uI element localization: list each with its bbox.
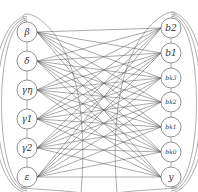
edge-gamma2-y [37, 148, 161, 177]
node-label: bk2 [165, 98, 176, 105]
node-label: b1 [165, 48, 177, 58]
edge-gamma1-b2 [37, 28, 161, 119]
edge-delta-y [37, 61, 161, 177]
node-beta: β [17, 22, 37, 42]
node-label: γη [22, 85, 33, 95]
diagram-canvas: βδγηγ1γ2εb2b1bk3bk2bk1bk0y [0, 0, 198, 192]
edge-delta-b2 [37, 28, 161, 61]
left-loop-arc [0, 18, 27, 191]
node-b1: b1 [161, 43, 181, 63]
node-gamma2: γ2 [17, 138, 37, 158]
node-epsilon: ε [17, 167, 37, 187]
edge-epsilon-bk0 [37, 152, 161, 177]
edge-gamma-eta-bk0 [37, 90, 161, 152]
edge-delta-b1 [37, 53, 161, 61]
node-label: bk0 [165, 148, 176, 155]
edge-beta-b2 [37, 28, 161, 32]
node-label: bk1 [165, 123, 176, 130]
edge-gamma1-bk0 [37, 119, 161, 152]
node-y: y [161, 167, 181, 187]
edge-gamma-eta-b2 [37, 28, 161, 90]
node-delta: δ [17, 51, 37, 71]
node-gamma1: γ1 [17, 109, 37, 129]
node-bk0: bk0 [161, 142, 181, 162]
edge-epsilon-b2 [37, 28, 161, 177]
node-label: y [167, 172, 174, 182]
edge-gamma1-bk1 [37, 119, 161, 127]
edge-delta-bk3 [37, 61, 161, 78]
edge-epsilon-bk1 [37, 127, 161, 177]
node-label: δ [24, 56, 29, 66]
node-label: bk3 [165, 74, 176, 81]
edges [37, 28, 161, 177]
node-label: ε [25, 172, 30, 182]
node-bk2: bk2 [161, 92, 181, 112]
node-label: γ2 [21, 143, 32, 153]
node-label: β [23, 27, 29, 37]
node-label: b2 [165, 23, 177, 33]
node-gamma-eta: γη [17, 80, 37, 100]
node-label: γ1 [21, 114, 32, 124]
edge-delta-bk0 [37, 61, 161, 152]
edge-gamma2-bk0 [37, 148, 161, 152]
node-bk1: bk1 [161, 117, 181, 137]
node-b2: b2 [161, 18, 181, 38]
edge-gamma-eta-bk1 [37, 90, 161, 127]
left-loop-arc [2, 20, 28, 189]
node-bk3: bk3 [161, 68, 181, 88]
bipartite-diagram: βδγηγ1γ2εb2b1bk3bk2bk1bk0y [0, 0, 198, 192]
left-loop-arc [0, 16, 27, 192]
